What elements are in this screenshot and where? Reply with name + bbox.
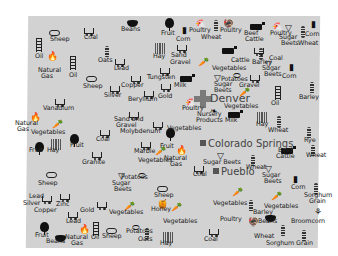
- resource-label: Beets: [114, 186, 132, 193]
- resource-label: Sheep: [102, 233, 122, 240]
- oil-derrick-icon: [275, 86, 281, 100]
- resource-label: Products: [196, 117, 223, 124]
- fruit-tree-icon: [165, 18, 174, 28]
- oil-derrick-icon: [36, 38, 42, 52]
- vegetables-icon: 🥕: [271, 192, 282, 201]
- vegetables-icon: 🥕: [232, 188, 243, 197]
- resource-label: Gravel: [239, 82, 259, 89]
- resource-label: Beets: [214, 87, 232, 94]
- resource-label: Beans: [258, 218, 277, 225]
- resource-label: Hay: [160, 240, 172, 247]
- resource-label: Coal: [193, 171, 207, 178]
- resource-label: Gold: [158, 93, 172, 100]
- resource-label: Fruit: [70, 142, 84, 149]
- wheat-icon: [214, 20, 218, 32]
- resource-label: Broomcorn: [291, 218, 325, 225]
- resource-label: Silver: [104, 92, 121, 99]
- resource-label: Sheep: [50, 36, 70, 43]
- resource-label: Vanadium: [43, 105, 74, 112]
- resource-label: Gold: [80, 207, 94, 214]
- resource-label: Vegetables: [31, 129, 65, 136]
- resource-label: Corn: [291, 184, 306, 191]
- resource-label: Beans: [121, 26, 140, 33]
- resource-label: Zinc: [56, 201, 69, 208]
- resource-label: Poultry: [220, 216, 242, 223]
- resource-label: Copper: [34, 207, 56, 214]
- resource-label: Lead: [114, 65, 129, 72]
- resource-label: Gas: [17, 126, 29, 133]
- resource-label: Beryllium: [128, 96, 157, 103]
- resource-label: Oil: [35, 53, 43, 60]
- wheat-icon: [281, 225, 285, 237]
- resource-label: Vegetables: [224, 103, 258, 110]
- resource-label: Copper: [121, 82, 143, 89]
- resource-label: Oil: [69, 72, 77, 79]
- gold-cart-icon: [161, 84, 171, 90]
- resource-label: Corn: [305, 31, 320, 38]
- resource-label: Wheat: [246, 164, 266, 171]
- resource-label: Barley: [299, 94, 319, 101]
- resource-label: Hay: [256, 121, 268, 128]
- resource-label: Rye: [304, 137, 316, 144]
- resource-label: Beets: [264, 178, 282, 185]
- resource-label: Fruit: [160, 143, 174, 150]
- resource-label: Fruit: [161, 30, 175, 37]
- resource-label: Beans: [46, 238, 65, 245]
- resource-label: Lead: [66, 218, 81, 225]
- resource-label: Tungsten: [147, 74, 175, 81]
- resource-label: Grain: [309, 198, 326, 205]
- resource-label: Vegetables: [138, 157, 172, 164]
- resource-label: Hay: [153, 53, 165, 60]
- resource-label: Gravel: [170, 59, 190, 66]
- resource-label: Potatoes: [126, 228, 153, 235]
- gold-cart-icon: [97, 202, 107, 208]
- resource-label: Sheep: [154, 192, 174, 199]
- sheep-icon: [46, 172, 57, 178]
- resource-label: Oil: [271, 100, 279, 107]
- resource-label: Sugar Beets: [203, 159, 241, 166]
- corn-icon: ▮: [182, 26, 187, 35]
- resource-label: Granite: [82, 159, 105, 166]
- vegetables-icon: 🥕: [198, 58, 209, 67]
- city-marker-icon: [200, 140, 206, 146]
- resource-label: Sheep: [83, 83, 103, 90]
- resource-label: Corn: [282, 73, 297, 80]
- resource-label: Milk: [174, 82, 186, 89]
- resource-label: Poultry: [220, 27, 242, 34]
- resource-label: Wheat: [268, 127, 288, 134]
- resource-label: Coal: [204, 236, 218, 243]
- resource-label: Vegetables: [212, 65, 246, 72]
- vegetables-icon: 🥕: [171, 203, 182, 212]
- resource-label: Vegetables: [167, 125, 201, 132]
- resource-label: Cattle: [276, 153, 295, 160]
- city-marker-icon: [213, 168, 219, 174]
- resource-label: Wheat: [306, 152, 326, 159]
- coal-cart-icon: [254, 48, 264, 54]
- resource-label: Beets: [281, 40, 299, 47]
- resource-label: Corn: [176, 36, 191, 43]
- cattle-icon: [222, 48, 234, 54]
- resource-label: Cattle: [245, 36, 264, 43]
- resource-label: Vegetables: [213, 200, 247, 207]
- resource-label: Coal: [84, 34, 98, 41]
- resource-label: Marble: [134, 148, 155, 155]
- resource-label: Cattle: [231, 57, 250, 64]
- natural-gas-icon: 🔥: [47, 52, 58, 61]
- resource-label: Vegetables: [163, 218, 197, 225]
- resource-label: Vegetables: [109, 209, 143, 216]
- resource-label: Gas: [41, 73, 53, 80]
- resource-label: Molybdenum: [120, 128, 160, 135]
- resource-label: Fruit: [29, 147, 43, 154]
- resource-label: Oil: [91, 234, 99, 241]
- resource-label: Beets: [264, 71, 282, 78]
- oil-derrick-icon: [70, 56, 76, 70]
- resource-label: Coal: [269, 55, 283, 62]
- resource-label: Wheat: [298, 40, 318, 47]
- resource-label: Oats: [98, 57, 112, 64]
- resource-label: Coal: [96, 136, 110, 143]
- broomcorn-icon: ⚘: [314, 208, 322, 217]
- resource-label: Gas: [71, 240, 83, 247]
- resource-label: Milk: [225, 117, 237, 124]
- corn-icon: ▮: [311, 20, 316, 29]
- resource-label: Sorghum Grain: [266, 240, 313, 247]
